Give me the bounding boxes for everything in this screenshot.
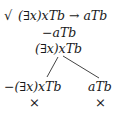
right-branch-closed-icon: × xyxy=(95,96,106,110)
left-branch-formula: −(∃x)xTb xyxy=(4,80,61,94)
left-branch-closed-icon: × xyxy=(29,96,40,110)
right-branch-line xyxy=(63,56,99,78)
left-branch-line xyxy=(47,57,58,77)
right-branch-formula: aTb xyxy=(88,80,112,94)
